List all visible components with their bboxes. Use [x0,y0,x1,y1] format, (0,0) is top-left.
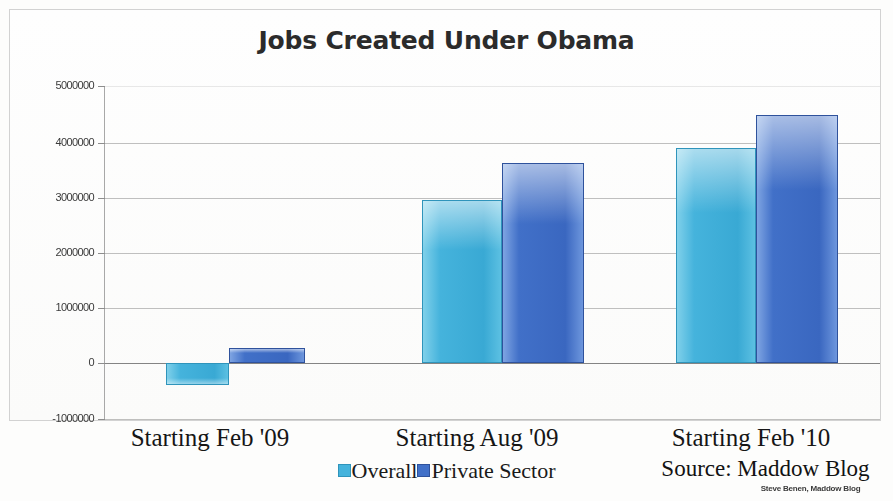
x-axis-label-feb09: Starting Feb '09 [104,424,316,452]
y-tick-1000000 [98,308,105,309]
y-tick-4000000 [98,143,105,144]
bar-overall-feb10[interactable] [676,148,756,363]
bar-gloss [503,164,583,223]
y-tick-5000000 [98,86,105,87]
bar-private-sector-aug09[interactable] [502,163,584,363]
y-tick-3000000 [98,198,105,199]
bar-gloss [757,116,837,190]
gridline-5000000 [104,86,880,87]
bar-gloss [423,201,501,249]
bar-private-sector-feb10[interactable] [756,115,838,363]
source-note: Source: Maddow Blog [638,456,893,482]
chart-plot-area: 5000000 4000000 3000000 2000000 1000000 … [0,0,893,501]
y-tick-minus-1000000 [98,419,105,420]
bar-gloss [230,349,304,353]
legend-item-overall[interactable]: Overall [338,458,418,484]
bar-private-sector-feb09[interactable] [229,348,305,363]
x-axis-label-feb10: Starting Feb '10 [636,424,866,452]
legend-item-private-sector[interactable]: Private Sector [417,458,555,484]
bar-overall-aug09[interactable] [422,200,502,363]
y-tick-label-2000000: 2000000 [10,246,94,258]
y-tick-label-0: 0 [10,356,94,368]
y-tick-2000000 [98,253,105,254]
y-tick-label-5000000: 5000000 [10,79,94,91]
bar-gloss [167,378,228,384]
y-tick-label-4000000: 4000000 [10,136,94,148]
credit-note: Steve Benen, Maddow Blog [733,484,888,493]
y-tick-label-3000000: 3000000 [10,191,94,203]
y-tick-label-minus-1000000: -1000000 [10,412,94,424]
bar-gloss [677,149,755,213]
x-axis-label-aug09: Starting Aug '09 [362,424,592,452]
bar-overall-feb09[interactable] [166,363,229,385]
y-tick-label-1000000: 1000000 [10,301,94,313]
legend-swatch-overall-icon [338,464,351,477]
gridline-minus-1000000 [104,419,880,420]
legend-label-private-sector: Private Sector [431,458,555,483]
y-tick-0 [98,363,105,364]
legend-label-overall: Overall [352,458,418,483]
legend-swatch-private-sector-icon [417,464,430,477]
